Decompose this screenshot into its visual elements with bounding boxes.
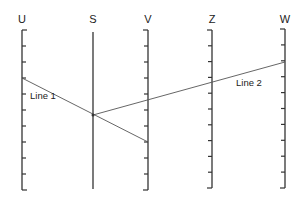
nomogram-diagram: [0, 0, 304, 205]
axis-label-z: Z: [209, 14, 216, 25]
axis-label-w: W: [280, 14, 290, 25]
axis-label-u: U: [18, 14, 26, 25]
connector-line1: [22, 78, 148, 142]
axis-z: [207, 30, 212, 188]
pivot-point: [92, 114, 95, 117]
axis-v: [143, 30, 148, 190]
axis-w: [280, 29, 285, 188]
connector-line2: [93, 62, 285, 115]
axis-label-v: V: [144, 14, 151, 25]
label-line1: Line 1: [30, 91, 56, 101]
axis-label-s: S: [89, 14, 96, 25]
label-line2: Line 2: [236, 78, 262, 88]
axis-u: [22, 30, 27, 190]
